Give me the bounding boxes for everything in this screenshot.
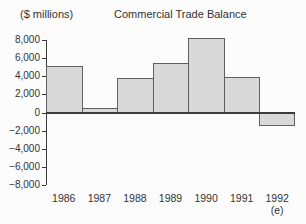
x-tick-label-1987: 1987 xyxy=(88,192,111,204)
chart-title: Commercial Trade Balance xyxy=(114,8,247,20)
x-tick-note: (e) xyxy=(266,204,289,216)
y-tick-label: 2,000 xyxy=(0,89,40,99)
bar-1986 xyxy=(46,66,83,112)
x-tick-label-1990: 1990 xyxy=(194,192,217,204)
bar-1989 xyxy=(153,63,190,113)
y-tick-label: −8,000 xyxy=(0,180,40,190)
y-tick-label: −4,000 xyxy=(0,144,40,154)
y-tick-mark xyxy=(42,131,46,132)
y-tick-mark xyxy=(42,167,46,168)
y-tick-mark xyxy=(42,149,46,150)
bar-1991 xyxy=(224,77,261,112)
y-tick-mark xyxy=(42,58,46,59)
y-tick-label: −6,000 xyxy=(0,162,40,172)
y-tick-label: 0 xyxy=(0,108,40,118)
x-tick-label-1991: 1991 xyxy=(230,192,253,204)
y-tick-label: 6,000 xyxy=(0,53,40,63)
x-tick-label-1992: 1992(e) xyxy=(266,192,289,216)
x-tick-label-1986: 1986 xyxy=(52,192,75,204)
y-tick-mark xyxy=(42,40,46,41)
plot-area: 8,0006,0004,0002,0000−2,000−4,000−6,000−… xyxy=(46,40,295,185)
y-tick-label: 4,000 xyxy=(0,71,40,81)
bar-1988 xyxy=(117,78,154,112)
y-tick-label: −2,000 xyxy=(0,126,40,136)
y-tick-label: 8,000 xyxy=(0,35,40,45)
x-tick-label-1989: 1989 xyxy=(159,192,182,204)
zero-baseline xyxy=(46,112,295,114)
chart-page: ($ millions) Commercial Trade Balance 8,… xyxy=(0,0,306,224)
x-tick-label-1988: 1988 xyxy=(123,192,146,204)
bar-1992 xyxy=(259,113,295,127)
bar-1990 xyxy=(188,38,225,112)
y-tick-mark xyxy=(42,185,46,186)
y-axis-units-label: ($ millions) xyxy=(20,8,73,20)
x-axis-labels: 1986198719881989199019911992(e) xyxy=(46,192,295,222)
